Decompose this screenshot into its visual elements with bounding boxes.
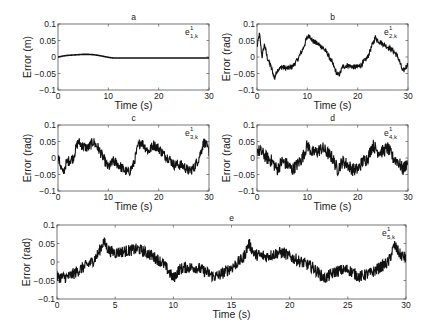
svg-text:1: 1 xyxy=(389,126,393,132)
y-tick-label: −0.05 xyxy=(233,69,255,79)
x-axis-label: Time (s) xyxy=(114,200,152,212)
svg-text:1: 1 xyxy=(190,25,194,31)
subplot-c: c−0.1−0.0500.050.10102030Time (s)Error (… xyxy=(21,113,214,212)
y-tick-label: 0.1 xyxy=(43,220,55,230)
y-tick-label: 0 xyxy=(50,257,55,267)
x-tick-label: 10 xyxy=(303,91,313,101)
y-tick-label: −0.05 xyxy=(233,170,255,180)
legend-label: e15,k xyxy=(382,226,396,240)
y-tick-label: 0.1 xyxy=(44,120,56,130)
y-tick-label: 0.05 xyxy=(39,137,56,147)
y-tick-label: 0 xyxy=(250,153,255,163)
subplot-title: a xyxy=(131,12,136,22)
axes-box xyxy=(57,225,406,299)
x-tick-label: 20 xyxy=(285,300,295,310)
x-tick-label: 30 xyxy=(403,192,413,202)
x-tick-label: 0 xyxy=(255,91,260,101)
svg-text:1: 1 xyxy=(190,126,194,132)
y-tick-label: −0.1 xyxy=(238,85,255,95)
subplot-title: c xyxy=(131,113,136,123)
y-tick-label: −0.05 xyxy=(34,69,56,79)
x-tick-label: 10 xyxy=(104,91,114,101)
y-tick-label: −0.1 xyxy=(238,186,255,196)
y-tick-label: 0.1 xyxy=(243,120,255,130)
y-tick-label: −0.1 xyxy=(38,294,55,304)
svg-text:1: 1 xyxy=(389,25,393,31)
svg-text:2,k: 2,k xyxy=(389,33,398,39)
y-tick-label: 0.05 xyxy=(38,239,55,249)
y-tick-label: −0.1 xyxy=(39,186,56,196)
y-axis-label: Error (rad) xyxy=(220,33,232,81)
x-tick-label: 20 xyxy=(154,192,164,202)
subplot-title: e xyxy=(229,213,234,223)
x-tick-label: 25 xyxy=(343,300,353,310)
legend-label: e12,k xyxy=(384,25,398,39)
x-tick-label: 30 xyxy=(401,300,411,310)
x-axis-label: Time (s) xyxy=(114,99,152,111)
legend-label: e13,k xyxy=(185,126,199,140)
y-tick-label: 0 xyxy=(250,52,255,62)
y-tick-label: −0.1 xyxy=(39,85,56,95)
y-tick-label: 0.05 xyxy=(238,137,255,147)
figure: a−0.1−0.0500.050.10102030Time (s)Error (… xyxy=(0,0,429,332)
y-tick-label: 0 xyxy=(51,52,56,62)
y-tick-label: −0.05 xyxy=(33,276,55,286)
x-axis-label: Time (s) xyxy=(313,200,351,212)
subplot-e: e−0.1−0.0500.050.1051015202530Time (s)Er… xyxy=(20,213,411,320)
x-tick-label: 10 xyxy=(169,300,179,310)
y-axis-label: Error (rad) xyxy=(20,238,32,286)
data-line xyxy=(257,140,408,176)
data-line xyxy=(257,33,408,80)
y-axis-label: Error (rad) xyxy=(21,134,33,182)
x-tick-label: 10 xyxy=(104,192,114,202)
subplot-title: b xyxy=(330,12,335,22)
svg-text:1: 1 xyxy=(387,226,391,232)
x-tick-label: 20 xyxy=(154,91,164,101)
data-line xyxy=(58,54,209,58)
y-tick-label: −0.05 xyxy=(34,170,56,180)
data-line xyxy=(57,238,406,283)
x-tick-label: 0 xyxy=(56,91,61,101)
x-axis-label: Time (s) xyxy=(313,99,351,111)
y-tick-label: 0.05 xyxy=(238,36,255,46)
y-axis-label: Error (m) xyxy=(21,36,33,78)
y-tick-label: 0.05 xyxy=(39,36,56,46)
x-tick-label: 30 xyxy=(204,91,214,101)
legend-label: e11,k xyxy=(185,25,199,39)
x-tick-label: 0 xyxy=(255,192,260,202)
data-line xyxy=(58,138,209,175)
y-axis-label: Error (rad) xyxy=(220,134,232,182)
subplot-title: d xyxy=(330,113,335,123)
y-tick-label: 0 xyxy=(51,153,56,163)
x-tick-label: 30 xyxy=(204,192,214,202)
svg-text:5,k: 5,k xyxy=(387,234,396,240)
y-tick-label: 0.1 xyxy=(243,19,255,29)
svg-text:4,k: 4,k xyxy=(389,134,398,140)
y-tick-label: 0.1 xyxy=(44,19,56,29)
x-tick-label: 5 xyxy=(113,300,118,310)
x-tick-label: 10 xyxy=(303,192,313,202)
x-tick-label: 20 xyxy=(353,192,363,202)
subplot-a: a−0.1−0.0500.050.10102030Time (s)Error (… xyxy=(21,12,214,111)
subplot-d: d−0.1−0.0500.050.10102030Time (s)Error (… xyxy=(220,113,413,212)
x-tick-label: 20 xyxy=(353,91,363,101)
x-tick-label: 0 xyxy=(55,300,60,310)
svg-text:1,k: 1,k xyxy=(190,33,199,39)
svg-text:3,k: 3,k xyxy=(190,134,199,140)
x-tick-label: 0 xyxy=(56,192,61,202)
x-tick-label: 30 xyxy=(403,91,413,101)
legend-label: e14,k xyxy=(384,126,398,140)
subplot-b: b−0.1−0.0500.050.10102030Time (s)Error (… xyxy=(220,12,413,111)
x-axis-label: Time (s) xyxy=(212,308,250,320)
